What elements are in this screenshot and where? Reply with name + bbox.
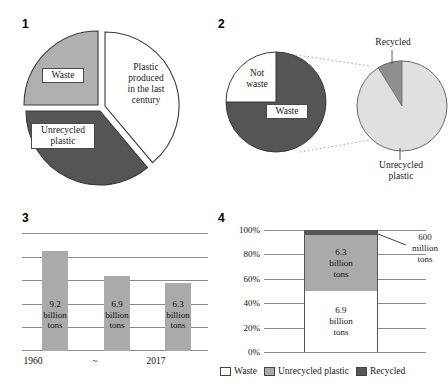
bar-value-label-2017: 6.3 billion tons [150,299,206,331]
panel-3-number: 3 [22,212,29,224]
y-tick-80: 80% [244,249,261,259]
pie-1-callout-unrecycled: Unrecycled plastic [31,123,95,149]
panel-3-tonnage-bar-chart: 3 9.2 billion tons 6.9 billion tons 6.3 … [0,200,224,389]
bar-value-1960: 9.2 [27,299,83,310]
stack-label-unrecycled-line-3: tons [329,269,353,280]
pie-1-callout-waste: Waste [42,68,84,83]
bar-value-label-middle: 6.9 billion tons [89,299,145,331]
bar-unit-2017-line-2: tons [150,320,206,331]
pie-chart-2-detail [354,58,448,154]
bar-chart-3-plot: 9.2 billion tons 6.9 billion tons 6.3 bi… [22,233,208,351]
stack-label-unrecycled-line-1: 6.3 [329,247,353,258]
legend-item-waste: Waste [220,366,257,376]
stack-label-unrecycled: 6.3 billion tons [329,247,353,280]
legend-label-recycled: Recycled [370,366,405,376]
pie-2-label-recycled: Recycled [362,37,424,48]
annotation-line-2: million [402,243,448,254]
legend-label-unrecycled: Unrecycled plastic [278,366,349,376]
stack-segment-unrecycled: 6.3 billion tons [304,235,378,291]
chart-4-legend: Waste Unrecycled plastic Recycled [220,366,405,376]
pie-2-label-not-waste: Not waste [234,68,280,90]
legend-swatch-unrecycled-icon [264,367,275,376]
pie-chart-1 [20,27,180,187]
annotation-600-million-tons: 600 million tons [402,232,448,265]
stack-label-waste-line-3: tons [329,327,353,338]
y-tick-60: 60% [244,274,261,284]
pie-1-label-produced: Plastic produced in the last century Pla… [116,62,176,106]
pie-1-label-produced-line-3: in the last [116,84,176,95]
pie-1-label-produced-line-1: Plastic [116,62,176,73]
legend-item-recycled: Recycled [356,366,405,376]
stack-label-waste-line-1: 6.9 [329,305,353,316]
gridline [22,233,208,234]
y-tick-40: 40% [244,298,261,308]
stacked-bar: 6.3 billion tons 6.9 billion tons [304,230,378,352]
bar-value-middle: 6.9 [89,299,145,310]
annotation-line-3: tons [402,254,448,265]
stack-label-waste: 6.9 billion tons [329,305,353,338]
bar-value-label-1960: 9.2 billion tons [27,299,83,331]
bar-unit-1960-line-1: billion [27,310,83,321]
bar-unit-middle-line-2: tons [89,320,145,331]
pie-2-label-not-waste-line-2: waste [234,79,280,90]
pie-2-label-unrecycled-line-2: plastic [366,171,436,182]
stack-label-unrecycled-line-2: billion [329,258,353,269]
annotation-line-1: 600 [402,232,448,243]
x-tick-1960: 1960 [3,356,63,366]
y-tick-20: 20% [244,323,261,333]
y-tick-100: 100% [239,225,260,235]
y-tick-0: 0% [248,347,260,357]
pie-1-label-produced-line-2: produced [116,73,176,84]
panel-4-stacked-bar-chart: 4 0% 20% 40% 60% 80% 100% 6.3 bi [210,200,448,389]
pie-2-label-unrecycled: Unrecycled plastic [366,160,436,182]
pie-2-callout-waste: Waste [266,104,308,119]
legend-swatch-waste-icon [220,367,231,376]
panel-4-number: 4 [218,212,225,224]
legend-swatch-recycled-icon [356,367,367,376]
bar-unit-1960-line-2: tons [27,320,83,331]
stack-segment-waste: 6.9 billion tons [304,291,378,352]
legend-item-unrecycled: Unrecycled plastic [264,366,349,376]
bar-value-2017: 6.3 [150,299,206,310]
x-tick-middle: ~ [65,356,125,366]
bar-unit-middle-line-1: billion [89,310,145,321]
x-tick-2017: 2017 [126,356,186,366]
stack-label-waste-line-2: billion [329,316,353,327]
pie-2-label-not-waste-line-1: Not [234,68,280,79]
pie-chart-2-left [224,50,328,154]
pie-1-label-produced-line-4: century [116,95,176,106]
bar-unit-2017-line-1: billion [150,310,206,321]
panel-1-total-plastic-pie: 1 Plastic produced in the last century P… [0,0,224,200]
panel-2-waste-breakdown: 2 Not waste Waste Recycled Unrecycled pl… [210,0,448,200]
panel-2-number: 2 [218,18,225,30]
pie-1-callout-unrecycled-line-1: Unrecycled [35,125,91,136]
legend-label-waste: Waste [234,366,257,376]
pie-2-label-unrecycled-line-1: Unrecycled [366,160,436,171]
pie-1-callout-unrecycled-line-2: plastic [35,136,91,147]
gridline-0: 0% [264,352,426,353]
